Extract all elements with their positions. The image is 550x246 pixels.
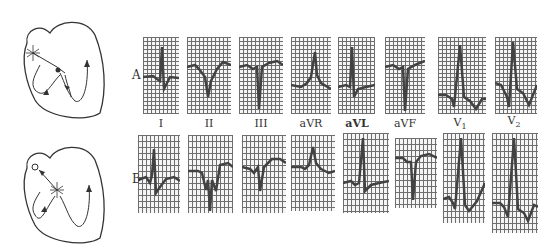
ecg-b-lead-iii <box>242 135 286 213</box>
ecg-a-lead-avf <box>385 37 425 114</box>
ecg-b-lead-i <box>138 135 180 213</box>
ecg-a-lead-avr <box>291 37 331 114</box>
ecg-a-lead-ii <box>187 37 231 114</box>
ecg-b-lead-v2 <box>492 133 538 233</box>
row-label-a: A <box>132 68 141 82</box>
ecg-a-lead-iii <box>239 37 283 114</box>
ecg-b-lead-avl <box>343 133 389 213</box>
ecg-a-lead-i <box>143 37 179 114</box>
lead-label-iii: III <box>241 117 281 130</box>
ecg-b-lead-v1 <box>443 133 485 223</box>
heart-diagram-a <box>5 5 130 120</box>
ecg-a-lead-v2 <box>495 37 537 114</box>
lead-label-avl: aVL <box>337 117 377 130</box>
heart-diagram-b <box>5 130 130 245</box>
ecg-b-lead-avf <box>395 138 437 208</box>
lead-label-v2: V2 <box>494 114 534 129</box>
lead-label-i: I <box>141 117 181 130</box>
ecg-b-lead-avr <box>291 135 335 211</box>
ecg-a-lead-avl <box>338 37 375 114</box>
ecg-b-lead-ii <box>188 135 233 213</box>
lead-label-v1-sub: 1 <box>461 122 466 131</box>
lead-label-v2-sub: 2 <box>515 120 520 129</box>
lead-label-v1: V1 <box>440 116 480 131</box>
lead-label-ii: II <box>189 117 229 130</box>
lead-label-avr: aVR <box>291 117 331 130</box>
lead-label-avf: aVF <box>385 117 425 130</box>
ecg-a-lead-v1 <box>438 37 486 114</box>
